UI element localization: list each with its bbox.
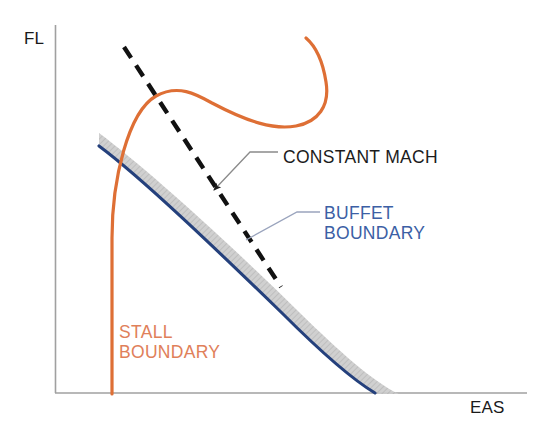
- diagram-canvas: [0, 0, 547, 444]
- buffet-boundary-label: BUFFET BOUNDARY: [324, 203, 425, 244]
- stall-boundary-label-line-2: BOUNDARY: [119, 342, 220, 362]
- buffet-boundary-label-line-1: BUFFET: [324, 203, 425, 223]
- stall-boundary-label: STALL BOUNDARY: [119, 322, 220, 363]
- stall-boundary-label-line-1: STALL: [119, 322, 220, 342]
- x-axis-label: EAS: [470, 398, 505, 418]
- buffet-boundary-leader: [246, 212, 320, 240]
- constant-mach-leader: [214, 152, 278, 190]
- constant-mach-line: [124, 47, 281, 287]
- y-axis-label: FL: [24, 29, 44, 49]
- buffet-boundary-label-line-2: BOUNDARY: [324, 223, 425, 243]
- flight-envelope-diagram: FL EAS CONSTANT MACH BUFFET BOUNDARY STA…: [0, 0, 547, 444]
- constant-mach-label: CONSTANT MACH: [283, 147, 438, 167]
